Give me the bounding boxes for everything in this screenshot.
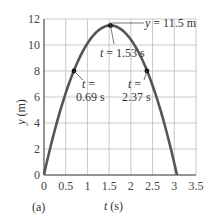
x-tick-label: 0 <box>41 179 47 193</box>
panel-label: (a) <box>32 200 45 214</box>
x-tick-label: 2.5 <box>145 179 160 193</box>
t1-value: 0.69 s <box>76 90 105 104</box>
y-tick-label: 12 <box>28 12 40 26</box>
peak-time-label: t = 1.53 s <box>100 46 145 60</box>
y-axis-label: y (m) <box>14 99 28 126</box>
y-tick-label: 2 <box>34 142 40 156</box>
x-tick-label: 1.5 <box>102 179 117 193</box>
x-axis-label: t (s) <box>104 199 123 213</box>
x-tick-label: 2 <box>128 179 134 193</box>
x-tick-label: 1 <box>84 179 90 193</box>
x-tick-label: 3.5 <box>189 179 204 193</box>
t2-label: t = <box>128 77 141 91</box>
x-tick-label: 3 <box>171 179 177 193</box>
y-tick-label: 8 <box>34 64 40 78</box>
y-tick-label: 6 <box>34 90 40 104</box>
y-tick-label: 4 <box>34 116 40 130</box>
x-tick-label: 0.5 <box>58 179 73 193</box>
y-tick-label: 10 <box>28 38 40 52</box>
y-tick-label: 0 <box>34 168 40 182</box>
tick-labels: 00.511.522.533.5024681012 <box>28 12 204 193</box>
t1-label: t = <box>82 77 95 91</box>
position-time-chart: 00.511.522.533.5024681012 y = 11.5 m t =… <box>0 0 214 216</box>
t2-value: 2.37 s <box>122 90 151 104</box>
grid <box>44 19 196 175</box>
annotations: y = 11.5 m t = 1.53 s t = 0.69 s t = 2.3… <box>74 16 197 104</box>
max-height-label: y = 11.5 m <box>144 16 197 30</box>
